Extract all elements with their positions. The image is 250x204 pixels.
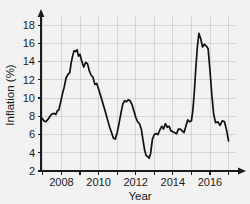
y-tick-label: 8 — [29, 110, 35, 122]
x-tick-label: 2010 — [86, 176, 110, 188]
chart-canvas: 24681012141618 20082010201220142016 Year… — [0, 0, 250, 204]
y-tick-label: 4 — [29, 147, 35, 159]
x-tick-label: 2016 — [198, 176, 222, 188]
inflation-line-chart: 24681012141618 20082010201220142016 Year… — [0, 0, 250, 204]
y-tick-label: 14 — [23, 55, 35, 67]
y-tick-label: 6 — [29, 128, 35, 140]
x-tick-label: 2008 — [49, 176, 73, 188]
y-tick-label: 16 — [23, 37, 35, 49]
y-tick-label: 2 — [29, 165, 35, 177]
y-tick-label: 12 — [23, 74, 35, 86]
x-tick-label: 2012 — [123, 176, 147, 188]
x-axis-title: Year — [128, 190, 151, 202]
y-tick-label: 18 — [23, 19, 35, 31]
y-tick-label: 10 — [23, 92, 35, 104]
y-axis-title: Inflation (%) — [4, 64, 16, 126]
x-tick-label: 2014 — [161, 176, 185, 188]
